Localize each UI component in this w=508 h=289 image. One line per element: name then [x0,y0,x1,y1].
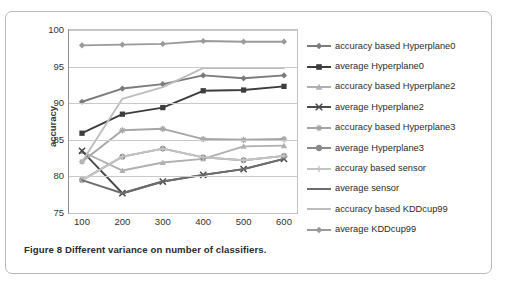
y-axis-tick-label: 75 [30,208,64,217]
legend-key-icon [306,122,332,134]
legend-item-5[interactable]: average Hyperplane3 [306,138,492,158]
legend-label: average Hyperplane3 [335,143,424,154]
data-point-marker-diamond [200,38,206,44]
y-axis-tick-label: 85 [30,135,64,144]
data-point-marker-diamond [241,39,247,45]
data-point-marker-diamond [316,43,323,50]
data-point-marker-diamond [79,42,85,48]
x-axis-tick-label: 200 [102,216,142,227]
data-point-marker-square [316,64,322,70]
legend-item-6[interactable]: accuray based sensor [306,158,492,178]
gridline [69,103,297,104]
data-point-marker-diamond [160,41,166,47]
legend-label: average Hyperplane2 [335,102,424,113]
data-point-marker-diamond [241,75,247,81]
y-axis-tick-label: 95 [30,62,64,71]
legend-item-7[interactable]: average sensor [306,179,492,199]
gridline [69,67,297,68]
legend-label: average sensor [335,183,399,194]
legend-key-icon [306,101,332,113]
y-axis-tick-label: 90 [30,98,64,107]
plot-area [68,29,298,214]
x-axis-ticks: 100200300400500600 [68,216,298,230]
data-point-marker-square [201,88,206,93]
gridline [69,140,297,141]
legend-key-icon [306,183,332,195]
legend-label: average KDDcup99 [335,224,416,235]
data-point-marker-diamond [119,85,125,91]
data-point-marker-diamond [200,72,206,78]
legend-key-icon [306,224,332,236]
legend-item-3[interactable]: average Hyperplane2 [306,97,492,117]
data-point-marker-square [160,105,165,110]
legend-label: accuracy based KDDcup99 [335,204,448,215]
gridline [69,176,297,177]
data-point-marker-asterisk [160,126,166,132]
legend-label: accuracy based Hyperplane3 [335,122,455,133]
legend-item-9[interactable]: average KDDcup99 [306,220,492,240]
legend-label: average Hyperplane0 [335,61,424,72]
data-point-marker-diamond [281,39,287,45]
legend-item-8[interactable]: accuracy based KDDcup99 [306,199,492,219]
data-point-marker-asterisk [119,127,125,133]
data-point-marker-square [241,87,246,92]
legend-key-icon [306,81,332,93]
figure-caption: Figure 8 Different variance on number of… [24,244,267,255]
chart-legend: accuracy based Hyperplane0average Hyperp… [306,36,492,240]
x-axis-tick-label: 300 [143,216,183,227]
legend-label: accuray based sensor [335,163,426,174]
legend-item-2[interactable]: accuracy based Hyperplane2 [306,77,492,97]
legend-item-0[interactable]: accuracy based Hyperplane0 [306,36,492,56]
data-point-marker-diamond [281,72,287,78]
figure-frame: accuracy 7580859095100 10020030040050060… [5,11,492,274]
x-axis-tick-label: 400 [183,216,223,227]
series-8 [82,68,284,162]
legend-item-4[interactable]: accuracy based Hyperplane3 [306,118,492,138]
data-point-marker-plus [160,145,166,151]
data-point-marker-circle [316,145,322,151]
y-axis-tick-label: 80 [30,171,64,180]
data-point-marker-square [79,131,84,136]
data-point-marker-square [120,112,125,117]
legend-label: accuracy based Hyperplane2 [335,81,455,92]
x-axis-tick-label: 600 [264,216,304,227]
chart-canvas [69,30,297,213]
data-point-marker-diamond [119,42,125,48]
legend-key-icon [306,40,332,52]
y-axis-tick-label: 100 [30,25,64,34]
data-point-marker-diamond [316,226,323,233]
legend-key-icon [306,163,332,175]
gridline [69,30,297,31]
x-axis-tick-label: 500 [224,216,264,227]
legend-key-icon [306,61,332,73]
data-point-marker-square [281,84,286,89]
legend-key-icon [306,142,332,154]
data-point-marker-asterisk [316,124,323,131]
data-point-marker-plus [241,157,247,163]
y-axis-ticks: 7580859095100 [28,29,64,214]
legend-key-icon [306,203,332,215]
series-2 [79,143,287,173]
series-9 [79,38,287,49]
x-axis-tick-label: 100 [62,216,102,227]
data-point-marker-plus [316,165,323,172]
legend-item-1[interactable]: average Hyperplane0 [306,56,492,76]
legend-label: accuracy based Hyperplane0 [335,41,455,52]
